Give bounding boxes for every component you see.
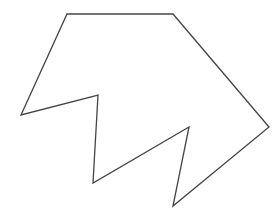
diagram-canvas [0, 0, 280, 213]
polygon-figure [0, 0, 280, 213]
irregular-polygon [21, 14, 269, 206]
